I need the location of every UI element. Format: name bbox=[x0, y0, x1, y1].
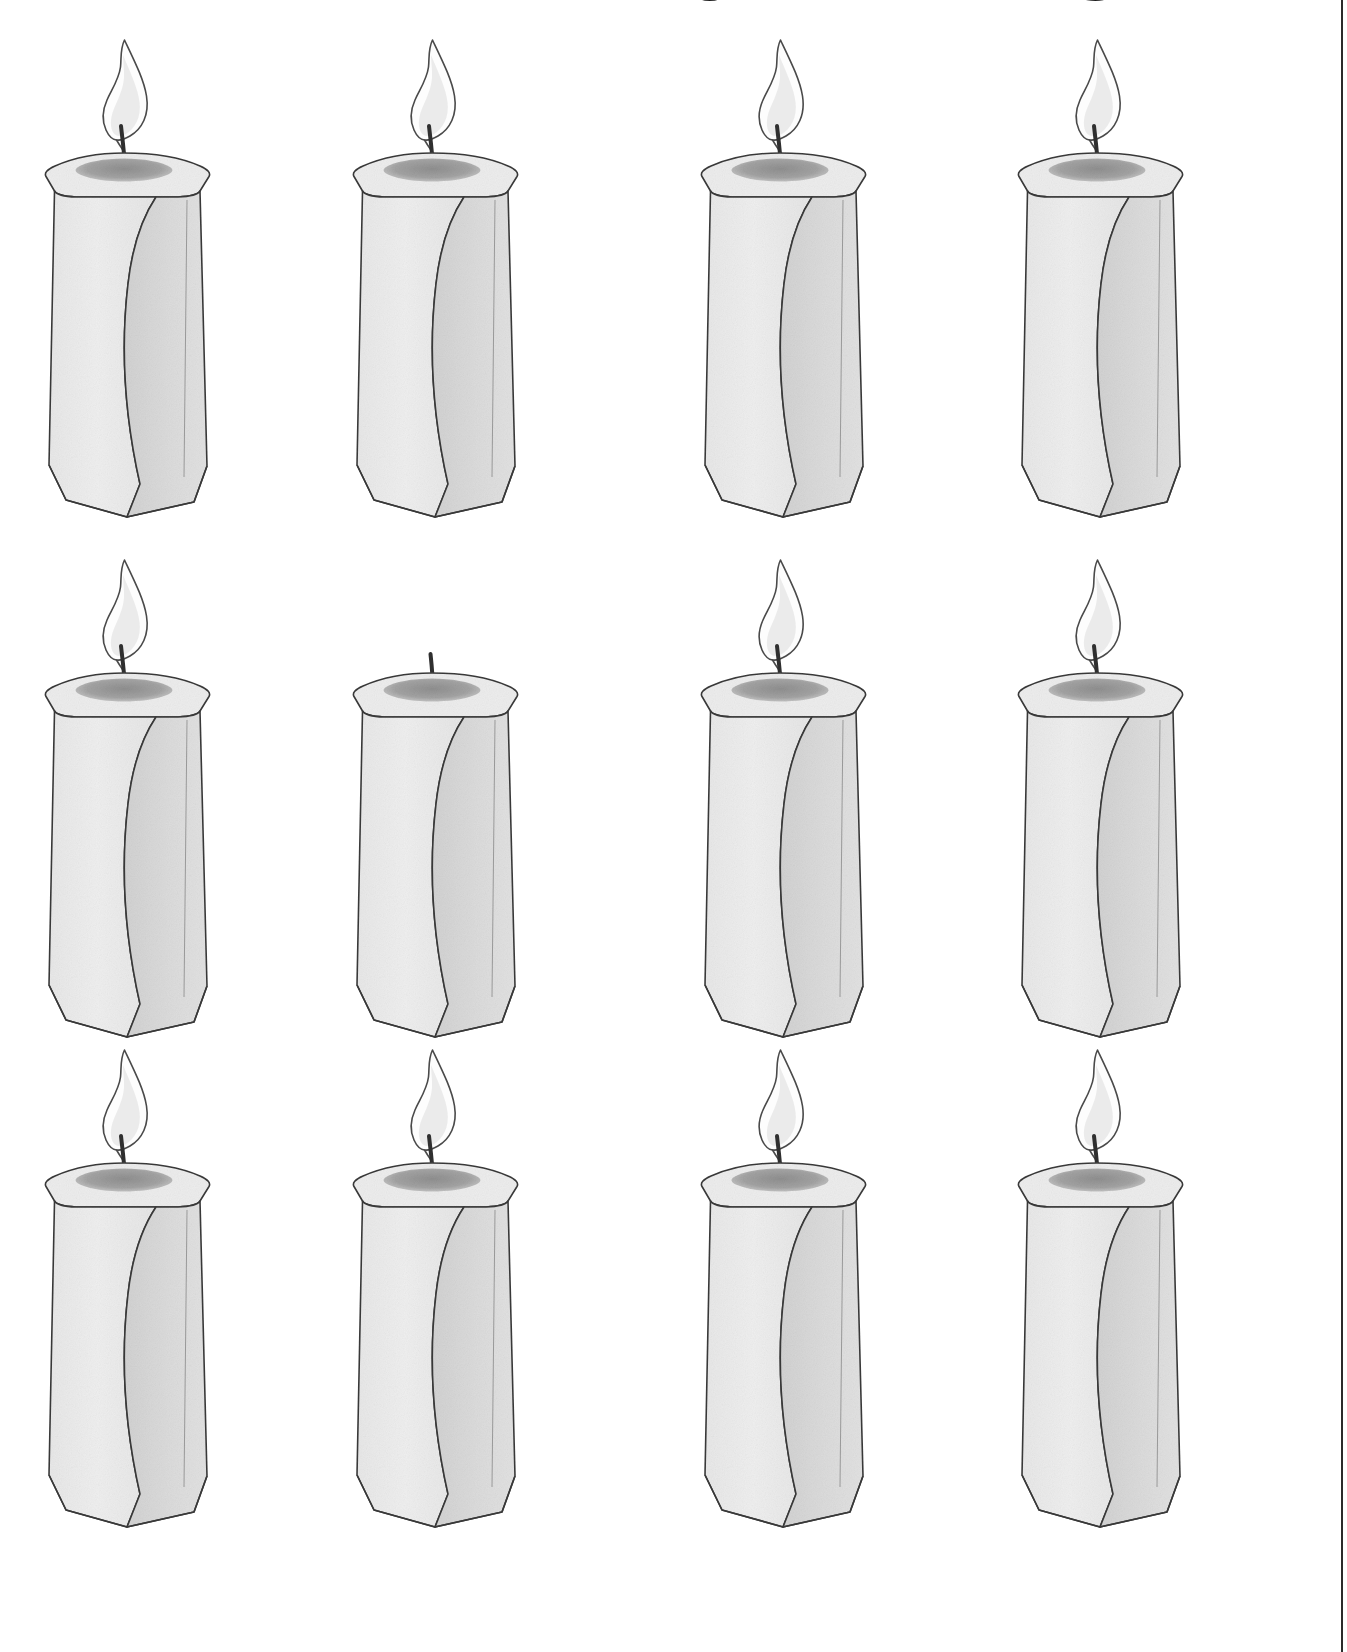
flame bbox=[759, 560, 803, 673]
candle-body bbox=[701, 153, 865, 517]
candle-right-face bbox=[124, 711, 207, 1037]
candle-right-face bbox=[1097, 711, 1180, 1037]
candle-body bbox=[45, 673, 209, 1037]
candle-right-face bbox=[780, 711, 863, 1037]
candle-lit[interactable] bbox=[977, 22, 1293, 542]
flame bbox=[1076, 40, 1120, 153]
candle-lit[interactable] bbox=[312, 1032, 628, 1552]
candle-right-face bbox=[124, 191, 207, 517]
flame bbox=[103, 560, 147, 673]
candle-body bbox=[701, 673, 865, 1037]
candle-body bbox=[1018, 673, 1182, 1037]
candle-lit[interactable] bbox=[660, 1032, 976, 1552]
candle-lit[interactable] bbox=[977, 542, 1293, 1062]
candle-right-face bbox=[432, 191, 515, 517]
candle-body bbox=[353, 1163, 517, 1527]
candle-right-face bbox=[780, 191, 863, 517]
flame bbox=[759, 40, 803, 153]
flame bbox=[1076, 1050, 1120, 1163]
candle-right-face bbox=[432, 1201, 515, 1527]
candle-right-face bbox=[124, 1201, 207, 1527]
candle-body bbox=[1018, 153, 1182, 517]
candle-right-face bbox=[432, 711, 515, 1037]
candle-body bbox=[353, 153, 517, 517]
flame bbox=[1076, 560, 1120, 673]
candle-lit[interactable] bbox=[977, 1032, 1293, 1552]
flame bbox=[759, 1050, 803, 1163]
candle-right-face bbox=[1097, 191, 1180, 517]
candle-body bbox=[45, 1163, 209, 1527]
candle-right-face bbox=[780, 1201, 863, 1527]
candle-body bbox=[45, 153, 209, 517]
candle-lit[interactable] bbox=[4, 542, 320, 1062]
candle-lit[interactable] bbox=[4, 22, 320, 542]
candle-lit[interactable] bbox=[4, 1032, 320, 1552]
candle-body bbox=[1018, 1163, 1182, 1527]
candle-lit[interactable] bbox=[660, 542, 976, 1062]
worksheet-page: DIFFERENT FROM THE REST bbox=[0, 0, 1347, 1652]
flame bbox=[103, 1050, 147, 1163]
candle-body bbox=[353, 673, 517, 1037]
candle-unlit[interactable] bbox=[312, 542, 628, 1062]
frame-right-rule bbox=[1341, 0, 1343, 1652]
candle-lit[interactable] bbox=[312, 22, 628, 542]
candle-right-face bbox=[1097, 1201, 1180, 1527]
candle-lit[interactable] bbox=[660, 22, 976, 542]
candle-body bbox=[701, 1163, 865, 1527]
flame bbox=[103, 40, 147, 153]
flame bbox=[411, 1050, 455, 1163]
flame bbox=[411, 40, 455, 153]
candle-grid bbox=[0, 0, 1341, 1652]
